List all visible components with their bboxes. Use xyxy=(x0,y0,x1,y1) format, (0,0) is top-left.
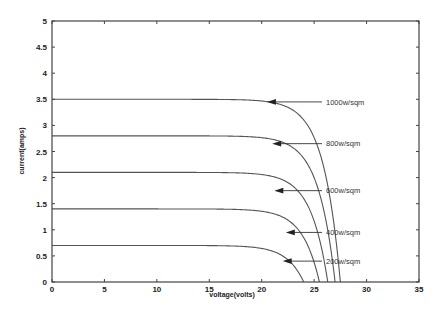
y-tick-label: 0.5 xyxy=(36,252,48,261)
x-tick-label: 20 xyxy=(257,285,266,294)
x-axis-label: voltage(volts) xyxy=(209,291,255,299)
annotation-label: 1000w/sqm xyxy=(326,98,364,107)
annotation-400w-sqm: 400w/sqm xyxy=(286,228,360,237)
series-line-200w-sqm xyxy=(52,245,304,282)
x-axis: 05101520253035 xyxy=(50,21,424,294)
y-axis: 00.511.522.533.544.55 xyxy=(36,17,419,287)
y-tick-label: 2 xyxy=(43,174,48,183)
annotation-label: 200w/sqm xyxy=(326,257,360,266)
annotation-800w-sqm: 800w/sqm xyxy=(272,139,360,148)
plot-frame xyxy=(52,21,419,282)
arrowhead-icon xyxy=(286,230,295,236)
y-tick-label: 3.5 xyxy=(36,95,48,104)
y-tick-label: 4 xyxy=(43,69,48,78)
x-tick-label: 35 xyxy=(415,285,424,294)
series-line-600w-sqm xyxy=(52,172,328,282)
y-tick-label: 0 xyxy=(43,278,48,287)
annotation-label: 600w/sqm xyxy=(326,186,360,195)
y-tick-label: 1 xyxy=(43,226,48,235)
arrowhead-icon xyxy=(267,99,276,105)
annotation-200w-sqm: 200w/sqm xyxy=(283,257,361,266)
annotation-label: 800w/sqm xyxy=(326,139,360,148)
y-tick-label: 4.5 xyxy=(36,43,48,52)
y-tick-label: 3 xyxy=(43,121,48,130)
arrowhead-icon xyxy=(272,141,281,147)
arrowhead-icon xyxy=(274,188,283,194)
iv-curve-chart: 05101520253035 00.511.522.533.544.55 100… xyxy=(0,0,441,314)
x-tick-label: 10 xyxy=(152,285,161,294)
y-axis-label: current(amps) xyxy=(18,127,26,174)
y-tick-label: 5 xyxy=(43,17,48,26)
x-tick-label: 5 xyxy=(102,285,107,294)
x-tick-label: 30 xyxy=(362,285,371,294)
annotation-label: 400w/sqm xyxy=(326,228,360,237)
y-tick-label: 2.5 xyxy=(36,148,48,157)
y-tick-label: 1.5 xyxy=(36,200,48,209)
x-tick-label: 25 xyxy=(310,285,319,294)
x-tick-label: 0 xyxy=(50,285,55,294)
